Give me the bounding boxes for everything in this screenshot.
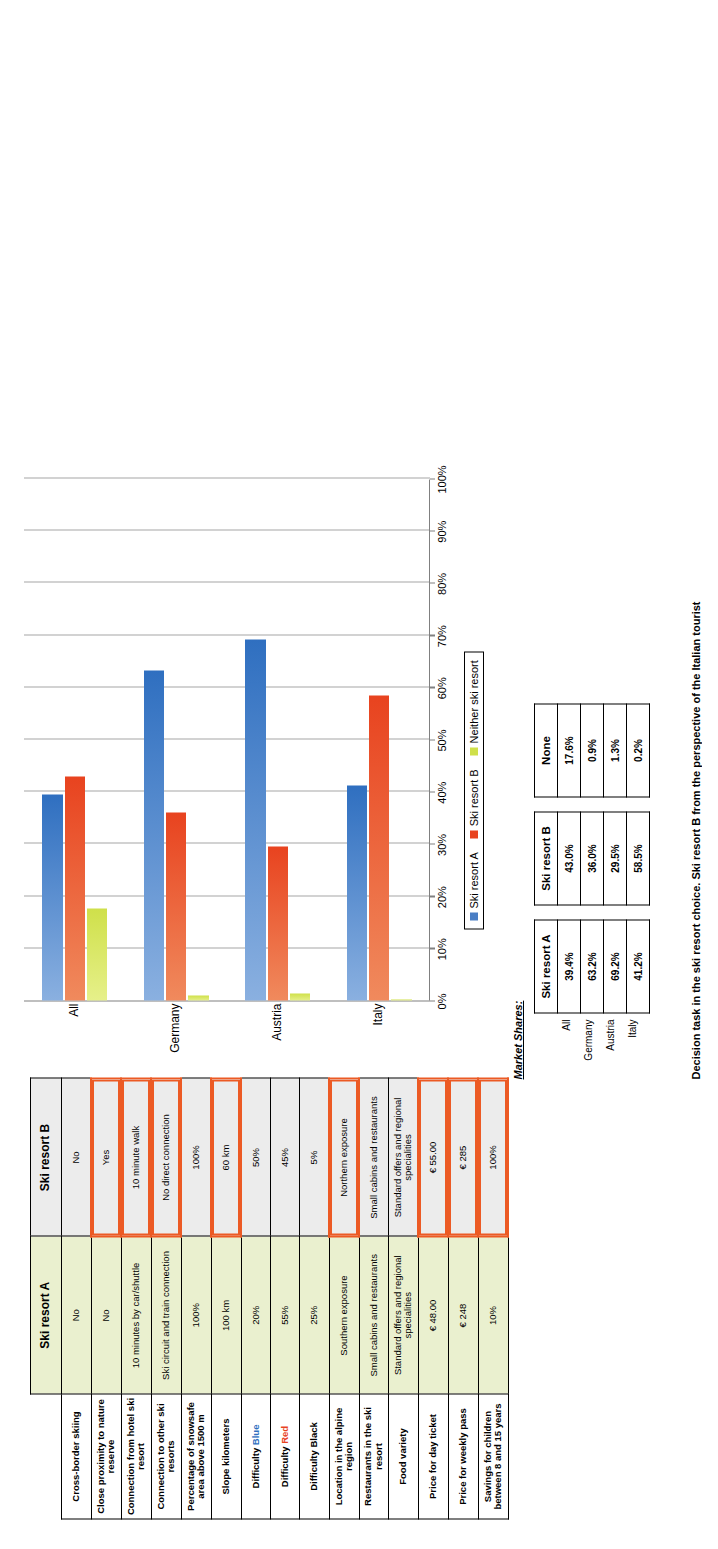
feature-label-cell: Connection to other ski resorts xyxy=(151,1394,181,1519)
table-row: Price for day ticket€ 48.00€ 55.00 xyxy=(418,1078,448,1519)
figure-caption: Decision task in the ski resort choice. … xyxy=(690,601,702,1079)
market-shares-value: 17.6% xyxy=(558,704,581,797)
y-tick-label: 50% xyxy=(436,718,448,762)
header-ski-resort-a: Ski resort A xyxy=(31,1236,62,1394)
market-share-bar-chart: AllGermanyAustriaItaly Ski resort ASki r… xyxy=(18,469,488,1079)
cell-ski-resort-b: 50% xyxy=(241,1078,271,1236)
cell-ski-resort-a: 10 minutes by car/shuttle xyxy=(121,1236,151,1394)
market-shares-header: Ski resort B xyxy=(535,812,558,905)
table-row: 1.3% xyxy=(604,704,627,797)
table-row: Percentage of snowsafe area above 1500 m… xyxy=(181,1078,211,1519)
cell-ski-resort-a: Standard offers and regional specialitie… xyxy=(389,1236,419,1394)
axis-tick-mark xyxy=(430,582,435,583)
bar-ski-resort-a-italy xyxy=(347,785,367,1000)
market-shares-row-label: Italy xyxy=(622,1013,644,1079)
legend-swatch-icon xyxy=(470,747,478,755)
table-row: Difficulty Blue20%50% xyxy=(241,1078,271,1519)
table-row: Price for weekly pass€ 248€ 285 xyxy=(448,1078,478,1519)
feature-label-cell: Slope kilometers xyxy=(211,1394,241,1519)
difficulty-color-word: Blue xyxy=(250,1424,261,1445)
legend-item-ski-resort-a: Ski resort A xyxy=(468,852,480,920)
document-page: Ski resort A Ski resort B Cross-border s… xyxy=(0,0,718,1549)
cell-ski-resort-b: Standard offers and regional specialitie… xyxy=(389,1078,419,1236)
market-shares-table: Ski resort B43.0%36.0%29.5%58.5% xyxy=(534,811,650,905)
bar-ski-resort-a-germany xyxy=(144,670,164,1000)
market-shares-table: Ski resort A39.4%63.2%69.2%41.2% xyxy=(534,919,650,1013)
comparison-table-head: Ski resort A Ski resort B xyxy=(31,1078,62,1519)
axis-tick-mark xyxy=(430,739,435,740)
cell-ski-resort-b: 10 minute walk xyxy=(121,1078,151,1236)
table-row: Restaurants in the ski resortSmall cabin… xyxy=(359,1078,389,1519)
legend-item-ski-resort-b: Ski resort B xyxy=(468,769,480,838)
category-label-all: All xyxy=(67,1003,81,1073)
gridline xyxy=(24,477,430,478)
cell-ski-resort-b: 45% xyxy=(271,1078,300,1236)
market-shares-header: None xyxy=(535,704,558,797)
bar-ski-resort-b-germany xyxy=(166,812,186,1000)
legend-label: Neither ski resort xyxy=(468,660,480,743)
axis-tick-mark xyxy=(430,1000,435,1001)
y-tick-label: 60% xyxy=(436,666,448,710)
axis-tick-mark xyxy=(430,791,435,792)
cell-ski-resort-b: 5% xyxy=(300,1078,330,1236)
feature-label-text: Difficulty xyxy=(308,1447,319,1490)
y-tick-label: 10% xyxy=(436,927,448,971)
axis-tick-mark xyxy=(430,478,435,479)
cell-ski-resort-a: 20% xyxy=(241,1236,271,1394)
comparison-table-body: Cross-border skiingNoNoClose proximity t… xyxy=(62,1078,509,1519)
table-row: 0.2% xyxy=(627,704,650,797)
bar-neither-ski-resort-germany xyxy=(188,995,208,1000)
market-shares-title: Market Shares: xyxy=(512,1000,524,1079)
table-row: Difficulty Red55%45% xyxy=(271,1078,300,1519)
category-label-austria: Austria xyxy=(270,1003,284,1073)
cell-ski-resort-b: No direct connection xyxy=(151,1078,181,1236)
market-shares-value: 43.0% xyxy=(558,812,581,905)
table-row: 39.4% xyxy=(558,920,581,1013)
table-row: 43.0% xyxy=(558,812,581,905)
gridline xyxy=(24,686,430,687)
table-row: 58.5% xyxy=(627,812,650,905)
corner-blank-cell xyxy=(31,1394,62,1519)
cell-ski-resort-a: Small cabins and restaurants xyxy=(359,1236,389,1394)
feature-label-cell: Price for day ticket xyxy=(418,1394,448,1519)
y-tick-label: 90% xyxy=(436,509,448,553)
axis-tick-mark xyxy=(430,530,435,531)
cell-ski-resort-b: € 55.00 xyxy=(418,1078,448,1236)
market-shares-value: 0.9% xyxy=(581,704,604,797)
market-shares-value: 41.2% xyxy=(627,920,650,1013)
feature-label-text: Difficulty xyxy=(279,1443,290,1486)
y-tick-label: 80% xyxy=(436,561,448,605)
cell-ski-resort-b: Yes xyxy=(91,1078,121,1236)
table-row: Food varietyStandard offers and regional… xyxy=(389,1078,419,1519)
bar-ski-resort-a-austria xyxy=(245,639,265,1000)
axis-tick-mark xyxy=(430,843,435,844)
gridline xyxy=(24,581,430,582)
axis-tick-mark xyxy=(430,686,435,687)
cell-ski-resort-b: 100% xyxy=(478,1078,508,1236)
category-label-italy: Italy xyxy=(371,1003,385,1073)
market-shares-value: 63.2% xyxy=(581,920,604,1013)
y-tick-label: 20% xyxy=(436,875,448,919)
market-shares-header: Ski resort A xyxy=(535,920,558,1013)
table-row: 29.5% xyxy=(604,812,627,905)
category-label-germany: Germany xyxy=(168,1003,182,1073)
header-ski-resort-b: Ski resort B xyxy=(31,1078,62,1236)
market-shares-tables: AllGermanyAustriaItaly Ski resort A39.4%… xyxy=(534,689,650,1079)
bar-ski-resort-b-italy xyxy=(369,695,389,1000)
market-shares-value: 58.5% xyxy=(627,812,650,905)
cell-ski-resort-a: No xyxy=(62,1236,92,1394)
y-tick-label: 0% xyxy=(436,979,448,1023)
feature-label-cell: Restaurants in the ski resort xyxy=(359,1394,389,1519)
market-shares-row-label: Austria xyxy=(600,1013,622,1079)
feature-label-cell: Cross-border skiing xyxy=(62,1394,92,1519)
table-header-row: Ski resort A Ski resort B xyxy=(31,1078,62,1519)
cell-ski-resort-a: 25% xyxy=(300,1236,330,1394)
cell-ski-resort-a: Southern exposure xyxy=(329,1236,359,1394)
table-row: Connection from hotel ski resort10 minut… xyxy=(121,1078,151,1519)
gridline xyxy=(24,529,430,530)
feature-label-cell: Percentage of snowsafe area above 1500 m xyxy=(181,1394,211,1519)
table-row: 63.2% xyxy=(581,920,604,1013)
y-tick-label: 100% xyxy=(436,457,448,501)
feature-label-cell: Close proximity to nature reserve xyxy=(91,1394,121,1519)
market-shares-value: 36.0% xyxy=(581,812,604,905)
